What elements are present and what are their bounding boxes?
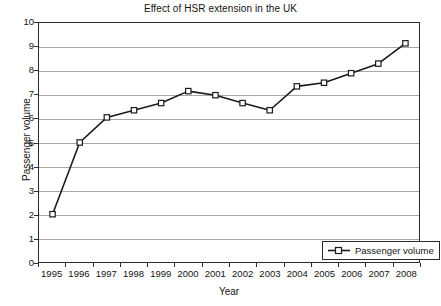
data-point-marker bbox=[294, 84, 299, 89]
data-point-marker bbox=[186, 88, 191, 93]
data-point-marker bbox=[403, 41, 408, 46]
x-axis-tick-label: 2006 bbox=[341, 268, 362, 279]
data-point-marker bbox=[213, 92, 218, 97]
x-axis-tick-label: 1997 bbox=[96, 268, 117, 279]
x-axis-tick-mark bbox=[393, 263, 394, 267]
x-axis-tick-mark bbox=[229, 263, 230, 267]
x-axis-tick-label: 2002 bbox=[232, 268, 253, 279]
data-point-marker bbox=[158, 100, 163, 105]
x-axis-tick-mark bbox=[65, 263, 66, 267]
x-axis-tick-label: 2003 bbox=[259, 268, 280, 279]
data-point-marker bbox=[104, 115, 109, 120]
x-axis-tick-mark bbox=[284, 263, 285, 267]
plot-area bbox=[38, 22, 420, 263]
x-axis-tick-mark bbox=[147, 263, 148, 267]
legend-label: Passenger volume bbox=[355, 245, 434, 256]
x-axis-tick-mark bbox=[365, 263, 366, 267]
data-point-marker bbox=[50, 212, 55, 217]
x-axis-tick-mark bbox=[311, 263, 312, 267]
x-axis-tick-label: 1996 bbox=[68, 268, 89, 279]
x-axis-tick-label: 2005 bbox=[314, 268, 335, 279]
legend: Passenger volume bbox=[322, 241, 440, 260]
x-axis-tick-label: 1999 bbox=[150, 268, 171, 279]
x-axis-tick-mark bbox=[120, 263, 121, 267]
chart-title: Effect of HSR extension in the UK bbox=[0, 3, 441, 14]
x-axis-tick-mark bbox=[174, 263, 175, 267]
data-point-marker bbox=[131, 108, 136, 113]
x-axis-tick-mark bbox=[420, 263, 421, 267]
y-axis-tick-marks bbox=[0, 22, 38, 263]
data-point-marker bbox=[376, 61, 381, 66]
series-line-passenger-volume bbox=[53, 43, 406, 214]
x-axis-tick-label: 1995 bbox=[41, 268, 62, 279]
x-axis-tick-label: 2001 bbox=[205, 268, 226, 279]
data-point-marker bbox=[348, 71, 353, 76]
x-axis-tick-label: 2000 bbox=[177, 268, 198, 279]
x-axis-tick-label: 2008 bbox=[396, 268, 417, 279]
x-axis-tick-label: 2004 bbox=[287, 268, 308, 279]
data-series-svg bbox=[39, 23, 419, 262]
chart-figure: Effect of HSR extension in the UK Passen… bbox=[0, 0, 441, 306]
x-axis-tick-mark bbox=[93, 263, 94, 267]
x-axis-tick-label: 2007 bbox=[368, 268, 389, 279]
x-axis-title: Year bbox=[38, 286, 420, 297]
x-axis-tick-label: 1998 bbox=[123, 268, 144, 279]
data-point-marker bbox=[77, 140, 82, 145]
series-markers-passenger-volume bbox=[50, 41, 408, 217]
x-axis-tick-mark bbox=[38, 263, 39, 267]
legend-marker-icon bbox=[327, 246, 351, 255]
x-axis-tick-mark bbox=[256, 263, 257, 267]
data-point-marker bbox=[321, 80, 326, 85]
x-axis-tick-labels: 1995199619971998199920002001200220032004… bbox=[38, 268, 420, 282]
data-point-marker bbox=[267, 108, 272, 113]
x-axis-tick-mark bbox=[338, 263, 339, 267]
data-point-marker bbox=[240, 100, 245, 105]
x-axis-tick-mark bbox=[202, 263, 203, 267]
